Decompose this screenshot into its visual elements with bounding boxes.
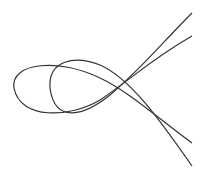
curve-left-loop xyxy=(14,36,192,143)
curves-drawing xyxy=(0,0,203,173)
figure xyxy=(0,0,203,173)
